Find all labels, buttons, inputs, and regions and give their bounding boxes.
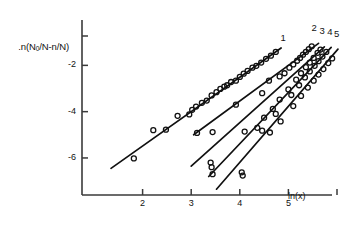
data-point — [297, 83, 302, 88]
x-axis-label: ln(x) — [288, 192, 306, 201]
x-tick-label: 2 — [133, 199, 153, 208]
y-tick-label: -4 — [52, 107, 76, 116]
curve-label-4: 4 — [327, 27, 332, 37]
data-point — [277, 74, 282, 79]
y-tick-label: -2 — [52, 60, 76, 69]
data-point — [291, 104, 296, 109]
curve-label-3: 3 — [319, 26, 324, 36]
data-point — [303, 65, 308, 70]
data-point — [242, 129, 247, 134]
data-point — [311, 78, 316, 83]
data-point — [260, 128, 265, 133]
data-point — [151, 128, 156, 133]
data-point — [273, 111, 278, 116]
data-point — [278, 119, 283, 124]
data-point — [299, 71, 304, 76]
x-tick-label: 3 — [181, 199, 201, 208]
y-axis-label: .n(N0/N-n/N) — [8, 32, 69, 62]
curve-label-5: 5 — [334, 29, 339, 39]
figure-container: .n(N0/N-n/N) -2-4-6 2345 ln(x) 12345 — [0, 0, 344, 229]
series-2 — [194, 43, 319, 135]
series-5 — [216, 49, 337, 189]
curve-label-2: 2 — [312, 23, 317, 33]
fit-line-2 — [194, 43, 319, 134]
x-tick-label: 4 — [230, 199, 250, 208]
data-point — [240, 173, 245, 178]
fit-line-5 — [216, 49, 337, 189]
data-point — [282, 71, 287, 76]
data-point — [210, 130, 215, 135]
data-point — [267, 130, 272, 135]
y-tick-label: -6 — [52, 153, 76, 162]
data-series-group — [111, 43, 338, 189]
series-4 — [209, 47, 331, 176]
data-point — [299, 93, 304, 98]
data-point — [305, 85, 310, 90]
y-axis-label-post: /N-n/N) — [39, 41, 69, 52]
y-axis-label-pre: .n(N — [18, 41, 36, 52]
data-point — [131, 156, 136, 161]
data-point — [289, 92, 294, 97]
curve-label-1: 1 — [281, 33, 286, 43]
data-point — [175, 113, 180, 118]
data-point — [260, 91, 265, 96]
